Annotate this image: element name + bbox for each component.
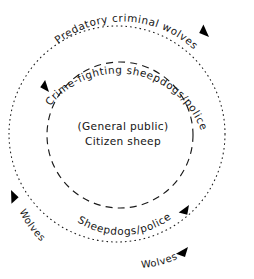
outer-ring-bottom-right-label: Wolves xyxy=(140,250,179,270)
concentric-ring-diagram: Predatory criminal wolves Crime-fighting… xyxy=(0,0,254,279)
outer-ring-arrow-left xyxy=(7,188,20,203)
outer-ring-arrow-bottom-right xyxy=(176,244,191,260)
outer-ring-left-label-text: Wolves xyxy=(18,207,48,243)
center-label-line1: (General public) xyxy=(78,120,169,132)
outer-ring-left-label: Wolves xyxy=(18,207,48,243)
outer-ring-arrow-top-right xyxy=(197,24,212,40)
outer-ring-bottom-right-label-text: Wolves xyxy=(140,250,179,270)
center-label-line2: Citizen sheep xyxy=(85,135,161,147)
inner-ring-bottom-label-text: Sheepdogs/police xyxy=(76,210,173,237)
inner-ring-arrow-bottom-right xyxy=(179,203,193,218)
inner-ring-bottom-label: Sheepdogs/police xyxy=(76,210,173,237)
ring-diagram-canvas: Predatory criminal wolves Crime-fighting… xyxy=(0,0,254,279)
